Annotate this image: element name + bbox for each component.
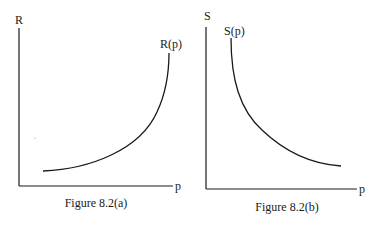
figure-a-y-axis-label: R [15, 14, 23, 26]
figures-canvas [0, 0, 379, 225]
figure-b-caption: Figure 8.2(b) [255, 201, 318, 213]
figure-b-curve-s [231, 38, 341, 166]
figure-a-caption: Figure 8.2(a) [65, 197, 128, 209]
figure-b-curve-label: S(p) [224, 25, 245, 37]
figure-b-x-axis-label: p [359, 183, 365, 195]
figure-b-y-axis-label: S [204, 10, 211, 22]
figure-a-curve-r [43, 53, 169, 171]
figure-a-x-axis-label: p [175, 180, 181, 192]
figure-a-curve-label: R(p) [160, 38, 182, 50]
figure-a-speck [35, 138, 36, 139]
